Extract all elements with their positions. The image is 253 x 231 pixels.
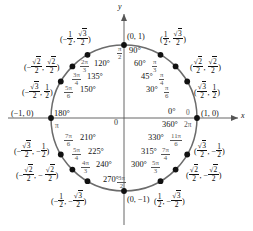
- degree-label-210: 210°: [80, 134, 96, 142]
- unit-circle-figure: y x 0 (0, 1) (1, 0) (−1, 0) (0, −1) 90° …: [0, 0, 253, 231]
- degree-label-30: 30°: [146, 86, 158, 94]
- degree-label-360: 360°: [162, 121, 178, 129]
- coord-label-45deg: (√22, √22): [190, 58, 221, 75]
- coord-label-300deg: (12, −√32): [154, 192, 185, 209]
- coord-label-0-minus1: (0, −1): [127, 196, 149, 204]
- coord-label-60deg: (12, √32): [160, 30, 186, 47]
- point-120deg: [85, 52, 91, 58]
- radian-label-0: 0: [186, 109, 190, 116]
- y-axis-arrow: [121, 14, 127, 21]
- coord-label-225deg: (−√22, − √22): [16, 166, 58, 183]
- x-axis-label: x: [241, 112, 245, 120]
- origin-label: 0: [114, 119, 118, 127]
- degree-label-0: 0°: [168, 108, 176, 116]
- radian-label-240: 4π3: [81, 160, 90, 175]
- degree-label-240: 240°: [96, 161, 112, 169]
- point-330deg: [184, 152, 190, 158]
- point-45deg: [173, 64, 179, 70]
- radian-label-300: 5π3: [151, 160, 160, 175]
- radian-label-90: π2: [117, 46, 122, 61]
- radian-label-180: π: [55, 122, 59, 129]
- degree-label-120: 120°: [94, 60, 110, 68]
- radian-label-360: 2π: [184, 121, 191, 128]
- point-30deg: [184, 79, 190, 85]
- degree-label-90: 90°: [129, 47, 141, 55]
- coord-label-135deg: (−√22, √22): [24, 58, 60, 75]
- coord-label-120deg: (−12, √32): [60, 30, 91, 47]
- point-240deg: [85, 178, 91, 184]
- point-135deg: [70, 64, 76, 70]
- point-300deg: [158, 178, 164, 184]
- radian-label-270: 3π2: [117, 175, 126, 190]
- coord-label-30deg: (√32, 12): [194, 83, 220, 100]
- point-210deg: [58, 152, 64, 158]
- degree-label-45: 45°: [141, 73, 153, 81]
- radian-label-60: π3: [152, 59, 157, 74]
- degree-label-60: 60°: [134, 60, 146, 68]
- y-axis-label: y: [118, 3, 122, 11]
- degree-label-300: 300°: [131, 161, 147, 169]
- coord-label-240deg: (−12, −√32): [51, 192, 86, 209]
- point-315deg: [173, 167, 179, 173]
- radian-label-30: π6: [164, 85, 169, 100]
- radian-label-150: 5π6: [64, 85, 73, 100]
- point-225deg: [70, 167, 76, 173]
- radian-label-210: 7π6: [64, 133, 73, 148]
- coord-label-330deg: (√32, −12): [194, 142, 225, 159]
- point-150deg: [58, 79, 64, 85]
- coord-label-315deg: (√22, −√22): [186, 166, 222, 183]
- point-0deg: [194, 115, 200, 121]
- coord-label-0-1: (0, 1): [127, 33, 145, 41]
- coord-label-150deg: (−√32, 12): [22, 83, 53, 100]
- degree-label-180: 180°: [54, 110, 70, 118]
- degree-label-315: 315°: [141, 148, 157, 156]
- radian-label-225: 5π4: [72, 147, 81, 162]
- coord-label-minus1-0: (−1, 0): [11, 110, 33, 118]
- radian-label-330: 11π6: [170, 133, 182, 148]
- degree-label-135: 135°: [87, 73, 103, 81]
- degree-label-150: 150°: [80, 86, 96, 94]
- radian-label-315: 7π4: [161, 147, 170, 162]
- x-axis-arrow: [231, 115, 238, 121]
- degree-label-330: 330°: [148, 134, 164, 142]
- degree-label-225: 225°: [88, 148, 104, 156]
- coord-label-1-0: (1, 0): [201, 110, 219, 118]
- coord-label-210deg: (−√32, −12): [14, 142, 49, 159]
- point-60deg: [158, 52, 164, 58]
